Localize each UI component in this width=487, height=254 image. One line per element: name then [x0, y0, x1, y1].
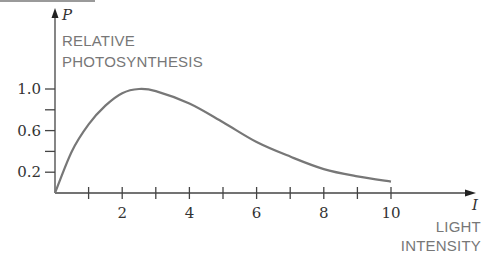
y-ticks: 0.20.61.0 — [17, 80, 55, 181]
y-tick-label: 1.0 — [17, 80, 41, 98]
photosynthesis-curve — [55, 89, 391, 193]
x-axis-label-line2: INTENSITY — [401, 237, 481, 254]
y-axis-label-line2: PHOTOSYNTHESIS — [62, 53, 203, 70]
y-tick-label: 0.6 — [17, 122, 41, 140]
y-tick-label: 0.2 — [17, 163, 41, 181]
x-tick-label: 10 — [381, 204, 400, 222]
photosynthesis-chart: 246810 0.20.61.0 P RELATIVE PHOTOSYNTHES… — [0, 0, 487, 254]
x-tick-label: 2 — [117, 204, 127, 222]
x-axis-label-line1: LIGHT — [436, 218, 481, 235]
x-variable-label: I — [471, 196, 479, 214]
y-axis-arrow-icon — [52, 8, 59, 18]
x-tick-label: 8 — [319, 204, 329, 222]
x-tick-label: 4 — [185, 204, 195, 222]
y-axis-label-line1: RELATIVE — [62, 32, 135, 49]
y-variable-label: P — [61, 6, 73, 24]
x-tick-label: 6 — [252, 204, 262, 222]
x-ticks: 246810 — [89, 187, 401, 222]
